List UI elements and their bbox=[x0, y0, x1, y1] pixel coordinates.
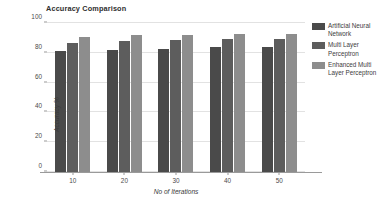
x-tick-label: 50 bbox=[276, 177, 283, 184]
y-axis-title: Accuracy % bbox=[53, 75, 60, 155]
bar bbox=[286, 34, 297, 172]
legend-item[interactable]: Multi Layer Perceptron bbox=[312, 41, 380, 57]
bar bbox=[274, 39, 285, 172]
legend-label: Enhanced Multi Layer Perceptron bbox=[328, 61, 380, 77]
bar bbox=[170, 40, 181, 172]
bar bbox=[182, 35, 193, 172]
bar bbox=[131, 35, 142, 172]
bar-group bbox=[202, 23, 254, 172]
y-tick-label: 40 bbox=[35, 102, 42, 109]
bar bbox=[158, 49, 169, 172]
x-axis-line bbox=[40, 172, 322, 173]
x-tick-mark bbox=[72, 172, 73, 175]
x-tick-label: 20 bbox=[121, 177, 128, 184]
legend-item[interactable]: Enhanced Multi Layer Perceptron bbox=[312, 61, 380, 77]
bar bbox=[234, 34, 245, 172]
x-axis-title: No of Iterations bbox=[47, 188, 305, 195]
bar bbox=[210, 47, 221, 172]
x-tick-label: 10 bbox=[69, 177, 76, 184]
chart-legend: Artificial Neural NetworkMulti Layer Per… bbox=[312, 22, 380, 80]
y-tick-label: 100 bbox=[31, 13, 42, 20]
legend-label: Artificial Neural Network bbox=[328, 22, 380, 38]
y-tick-label: 80 bbox=[35, 42, 42, 49]
plot-area: 020406080100 1020304050 Accuracy % bbox=[47, 23, 305, 172]
chart-figure: Accuracy Comparison 020406080100 1020304… bbox=[0, 0, 380, 206]
x-tick-mark bbox=[227, 172, 228, 175]
x-tick-label: 30 bbox=[172, 177, 179, 184]
bar-group bbox=[253, 23, 305, 172]
legend-swatch-icon bbox=[312, 42, 325, 49]
bar bbox=[79, 37, 90, 172]
legend-swatch-icon bbox=[312, 23, 325, 30]
y-tick-label: 20 bbox=[35, 132, 42, 139]
x-tick-label: 40 bbox=[224, 177, 231, 184]
bar bbox=[119, 41, 130, 172]
bar-group bbox=[150, 23, 202, 172]
y-tick-label: 60 bbox=[35, 72, 42, 79]
chart-title: Accuracy Comparison bbox=[46, 4, 126, 13]
x-tick-mark bbox=[279, 172, 280, 175]
bar bbox=[67, 43, 78, 172]
bar bbox=[107, 50, 118, 172]
legend-label: Multi Layer Perceptron bbox=[328, 41, 380, 57]
legend-item[interactable]: Artificial Neural Network bbox=[312, 22, 380, 38]
y-tick-label: 0 bbox=[38, 162, 42, 169]
x-tick-mark bbox=[176, 172, 177, 175]
bar bbox=[222, 39, 233, 172]
x-tick-mark bbox=[124, 172, 125, 175]
bar-group bbox=[99, 23, 151, 172]
bar bbox=[262, 47, 273, 172]
legend-swatch-icon bbox=[312, 62, 325, 69]
